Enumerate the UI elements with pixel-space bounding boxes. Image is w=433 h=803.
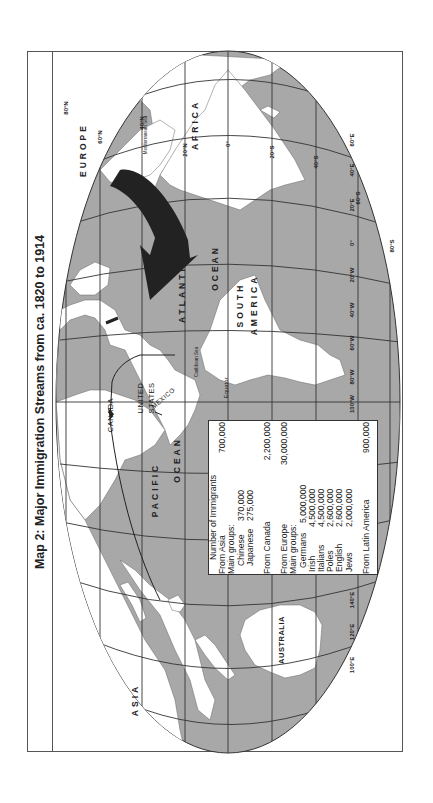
legend-latin-america-label: From Latin America [362,499,371,574]
tick-lon-120e: 120°E [349,624,355,640]
label-pacific: PACIFIC [150,463,160,517]
label-united: UNITED [136,383,145,414]
world-map [0,0,433,803]
legend-group-name: Jews [345,527,354,580]
label-africa: AFRICA [190,100,200,150]
legend-row-canada: From Canada 2,200,000 [263,422,272,574]
tick-lon-40e: 40°E [349,163,355,176]
label-america: AMERICA [249,275,259,336]
label-pacific-ocean: OCEAN [172,437,182,483]
tick-lat-40n: 40°N [139,116,145,129]
legend-canada-value: 2,200,000 [263,422,272,460]
label-asia: ASIA [130,684,140,716]
label-atlantic-ocean: OCEAN [210,245,220,291]
tick-lon-100e: 100°E [349,657,355,673]
legend-group-value: 2,000,000 [345,488,354,526]
legend-group-value: 275,000 [246,489,255,520]
tick-lon-40w: 40°W [349,303,355,318]
legend-row-latin-america: From Latin America 900,000 [362,422,371,574]
legend-europe-value: 30,000,000 [280,422,289,465]
tick-lat-20s: 20°S [269,145,275,158]
tick-lat-0: 0° [225,141,231,147]
label-atlantic: ATLANTIC [177,257,187,323]
legend-canada-label: From Canada [263,521,272,574]
legend-latin-america-value: 900,000 [362,422,371,453]
tick-lat-60n: 60°N [97,130,103,143]
legend-box: Number of Immigrants From Asia 700,000 M… [208,420,378,575]
tick-lat-80n: 80°N [63,101,69,114]
tick-lat-40s: 40°S [313,155,319,168]
legend-group-name: Japanese [246,521,255,574]
label-australia: AUSTRALIA [277,616,286,664]
tick-lon-20w: 20°W [349,268,355,283]
tick-lon-100w: 100°W [349,395,355,413]
tick-lon-60e: 60°E [349,133,355,146]
label-canada: CANADA [106,398,115,432]
label-equator: Equator [223,377,229,398]
tick-lon-20e: 20°E [349,198,355,211]
tick-lat-20n: 20°N [182,143,188,156]
tick-lat-80s: 80°S [389,239,395,252]
tick-lat-60s: 60°S [355,191,361,204]
tick-lon-80w: 80°W [349,370,355,385]
label-caribbean-sea: Caribbean Sea [194,347,199,377]
legend-asia-value: 700,000 [218,422,227,453]
label-south: SOUTH [235,283,245,328]
tick-lon-140e: 140°E [349,592,355,608]
tick-lon-0: 0° [349,240,355,246]
legend-asia-group-row: Japanese 275,000 [246,422,255,574]
legend-europe-group-row: Jews 2,000,000 [345,422,354,580]
tick-lon-60w: 60°W [349,336,355,351]
label-europe: EUROPE [78,123,88,177]
